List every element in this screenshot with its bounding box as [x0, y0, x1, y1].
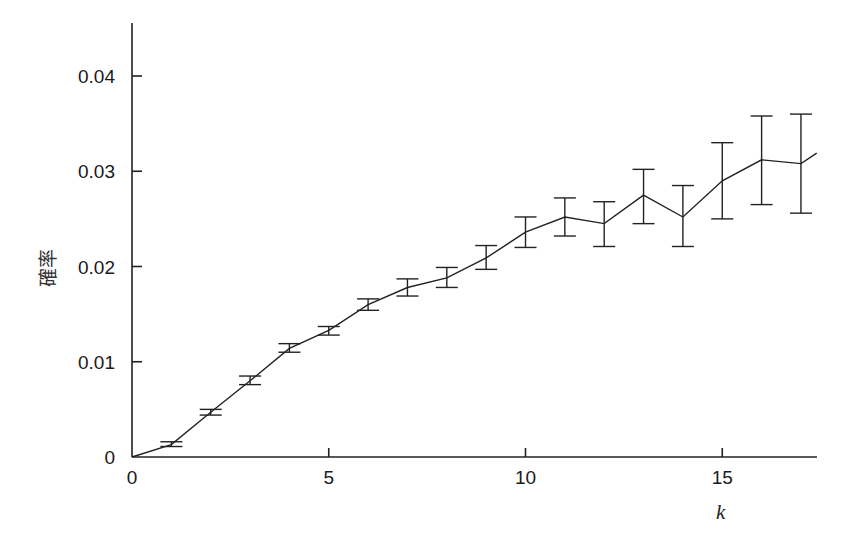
y-tick-label: 0.01 [78, 352, 115, 373]
x-tick-label: 15 [712, 467, 733, 488]
error-bars [160, 114, 812, 446]
line-chart: 00.010.020.030.04051015 [0, 0, 849, 552]
error-bar [633, 169, 655, 223]
axes [132, 23, 817, 457]
y-tick-label: 0.02 [78, 257, 115, 278]
y-tick-label: 0.03 [78, 161, 115, 182]
x-tick-label: 0 [127, 467, 138, 488]
x-tick-label: 5 [323, 467, 334, 488]
data-line [132, 153, 817, 457]
error-bar [672, 186, 694, 247]
y-axis-label: 確率 [28, 248, 68, 288]
y-tick-label: 0 [104, 447, 115, 468]
axis-ticks: 00.010.020.030.04051015 [78, 66, 733, 488]
x-axis-label: k [716, 500, 725, 525]
x-tick-label: 10 [515, 467, 536, 488]
y-tick-label: 0.04 [78, 66, 115, 87]
